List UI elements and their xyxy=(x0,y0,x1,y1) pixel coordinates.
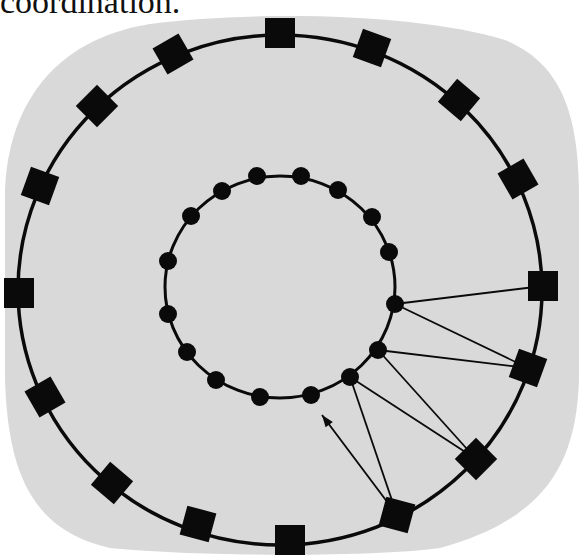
inner-node-dot xyxy=(329,181,347,199)
inner-node-dot xyxy=(159,252,177,270)
inner-node-dot xyxy=(341,368,359,386)
inner-node-dot xyxy=(302,386,320,404)
outer-node-square xyxy=(275,525,305,555)
inner-node-dot xyxy=(251,388,269,406)
inner-node-dot xyxy=(363,208,381,226)
inner-node-dot xyxy=(248,167,266,185)
inner-node-dot xyxy=(369,341,387,359)
inner-node-dot xyxy=(159,305,177,323)
inner-node-dot xyxy=(292,167,310,185)
inner-node-dot xyxy=(207,371,225,389)
inner-node-dot xyxy=(380,243,398,261)
inner-node-dot xyxy=(213,182,231,200)
outer-node-square xyxy=(4,278,34,308)
inner-node-dot xyxy=(182,207,200,225)
inner-node-dot xyxy=(178,343,196,361)
inner-node-dot xyxy=(386,295,404,313)
ring-network-diagram xyxy=(0,0,579,557)
outer-node-square xyxy=(265,18,295,48)
